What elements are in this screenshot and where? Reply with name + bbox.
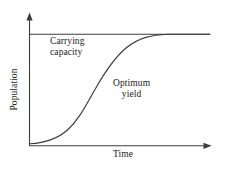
y-axis-label: Population (9, 59, 20, 121)
carrying-capacity-label-line1: Carrying (50, 36, 85, 47)
x-axis-label-text: Time (113, 149, 133, 159)
x-axis-arrow-icon (204, 143, 212, 149)
optimum-yield-label: Optimum yield (113, 78, 150, 100)
y-axis-arrow-icon (26, 13, 32, 21)
y-axis-label-text: Population (9, 68, 19, 110)
x-axis-label: Time (103, 149, 143, 160)
optimum-yield-label-line2: yield (113, 89, 150, 100)
carrying-capacity-label: Carrying capacity (50, 36, 85, 58)
optimum-yield-label-line1: Optimum (113, 78, 150, 89)
carrying-capacity-label-line2: capacity (50, 47, 85, 58)
logistic-growth-figure: Population Time Carrying capacity Optimu… (0, 0, 228, 172)
